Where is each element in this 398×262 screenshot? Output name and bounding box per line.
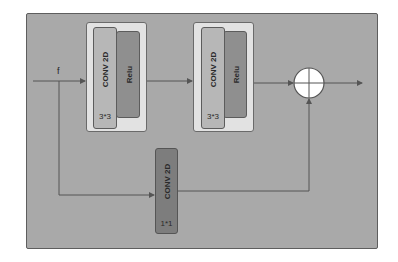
conv-label: CONV 2D [163,142,172,222]
kernel-label: 3*3 [202,112,224,121]
relu-layer-1: Relu [116,31,140,118]
conv-block-2: Relu CONV 2D 3*3 [193,22,254,132]
conv-layer-1: CONV 2D 3*3 [93,27,117,129]
kernel-label: 3*3 [94,112,116,121]
conv-block-1: Relu CONV 2D 3*3 [86,22,147,132]
relu-layer-2: Relu [223,31,247,118]
skip-conv-1x1: CONV 2D 1*1 [155,148,178,234]
relu-label: Relu [232,35,241,115]
relu-label: Relu [125,35,134,115]
kernel-label: 1*1 [156,219,177,228]
input-label: f [57,66,60,76]
conv-label: CONV 2D [101,30,110,110]
conv-layer-2: CONV 2D 3*3 [201,27,225,129]
conv-label: CONV 2D [209,30,218,110]
